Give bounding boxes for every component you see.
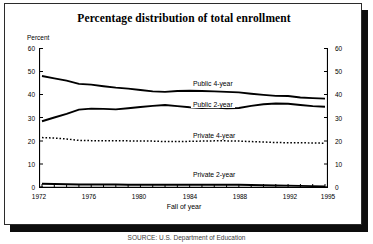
y-tick-label-30: 30 <box>19 115 35 122</box>
x-tick-label-1984: 1984 <box>178 193 202 200</box>
series-line-private-4-year <box>42 138 325 144</box>
x-tick-label-1992: 1992 <box>278 193 302 200</box>
x-tick-label-1976: 1976 <box>77 193 101 200</box>
y-tick-label-right-60: 60 <box>335 45 342 52</box>
plot-area <box>39 48 328 188</box>
y-tick-label-right-10: 10 <box>335 161 342 168</box>
x-tick-label-1972: 1972 <box>27 193 51 200</box>
series-line-public-4-year <box>42 76 325 99</box>
y-tick-label-10: 10 <box>19 161 35 168</box>
y-tick-label-right-40: 40 <box>335 91 342 98</box>
x-tick-label-1988: 1988 <box>228 193 252 200</box>
series-label-private-4-year: Private 4-year <box>191 132 237 139</box>
chart-panel: Percentage distribution of total enrollm… <box>4 3 362 225</box>
x-tick-label-1980: 1980 <box>127 193 151 200</box>
source-note: SOURCE: U.S. Department of Education <box>0 234 373 244</box>
y-tick-label-20: 20 <box>19 138 35 145</box>
y-tick-label-60: 60 <box>19 45 35 52</box>
y-tick-label-right-20: 20 <box>335 138 342 145</box>
y-axis-unit-label: Percent <box>27 34 49 41</box>
x-tick-label-1995: 1995 <box>316 193 340 200</box>
series-label-public-2-year: Public 2-year <box>191 101 235 108</box>
y-tick-label-0: 0 <box>19 184 35 191</box>
y-tick-label-right-30: 30 <box>335 115 342 122</box>
x-axis-title: Fall of year <box>5 203 363 210</box>
y-tick-label-50: 50 <box>19 68 35 75</box>
series-line-public-2-year <box>42 104 325 122</box>
series-label-private-2-year: Private 2-year <box>191 171 237 178</box>
series-label-public-4-year: Public 4-year <box>191 80 235 87</box>
figure-root: Percentage distribution of total enrollm… <box>0 0 373 244</box>
series-line-private-2-year <box>42 184 325 187</box>
y-tick-label-right-50: 50 <box>335 68 342 75</box>
y-tick-label-40: 40 <box>19 91 35 98</box>
chart-title: Percentage distribution of total enrollm… <box>5 12 363 24</box>
y-tick-label-right-0: 0 <box>335 184 339 191</box>
